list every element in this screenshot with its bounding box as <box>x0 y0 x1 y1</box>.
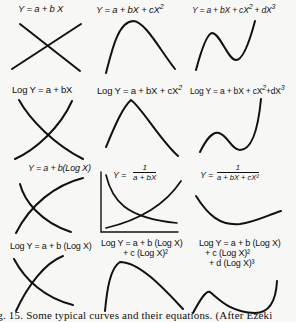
curve-loglog <box>14 256 73 311</box>
equation-line-3: + d (Log X)³ <box>199 258 281 268</box>
curve-log-linear <box>15 100 83 159</box>
figure-caption: ig. 15. Some typical curves and their eq… <box>0 309 273 321</box>
equation-text: Y = a + b X <box>18 3 63 14</box>
equation-line-1: Log Y = a + b (Log X) <box>101 238 183 248</box>
curve-cubic <box>196 21 255 70</box>
curve-linear <box>12 24 81 71</box>
equation-text: Log Y = a + bX + cX <box>97 85 178 96</box>
equation-semilog: Y = a + b(Log X) <box>28 163 91 173</box>
equation-cubic: Y = a + bX + cX2 + dX3 <box>192 3 275 15</box>
equation-line-1: Log Y = a + b (Log X) <box>199 238 281 248</box>
equation-line-2: + c (Log X)² <box>199 248 281 258</box>
equation-log-cubic: Log Y = a + bX + cX2+dX3 <box>190 84 284 96</box>
fraction-denominator: a + bX + cX² <box>217 173 259 182</box>
equation-text: Y = a + bX + cX <box>192 5 249 15</box>
exponent: 3 <box>281 84 285 91</box>
equation-reciprocal-quadratic-prefix: Y = <box>200 170 213 180</box>
exponent: 2 <box>160 3 164 10</box>
curve-log-quadratic <box>106 100 178 156</box>
equation-text: Y = a + bX + cX <box>96 4 160 15</box>
fraction-numerator: 1 <box>133 163 156 173</box>
equation-text: Y = <box>200 170 213 180</box>
curves-canvas <box>0 0 296 322</box>
equation-loglog-cubic: Log Y = a + b (Log X) + c (Log X)² + d (… <box>199 238 281 268</box>
curve-loglog-quadratic <box>105 262 183 311</box>
equation-line-2: + c (Log X)² <box>101 248 183 258</box>
curve-quadratic <box>106 21 175 73</box>
equation-text: Y = <box>113 170 126 180</box>
equation-linear: Y = a + b X <box>18 3 63 14</box>
equation-log-linear: Log Y = a + bX <box>12 84 72 95</box>
curve-semilog <box>16 178 83 233</box>
equation-text: +dX <box>266 86 281 96</box>
exponent: 2 <box>178 84 182 91</box>
curve-log-cubic <box>200 99 261 152</box>
fraction-numerator: 1 <box>217 163 259 173</box>
fraction-denominator: a + bX <box>133 173 156 182</box>
equation-log-quadratic: Log Y = a + bX + cX2 <box>97 84 182 96</box>
equation-text: Y = a + b(Log X) <box>28 163 91 173</box>
equation-reciprocal-quadratic-fraction: 1 a + bX + cX² <box>217 163 259 182</box>
equation-text: + dX <box>252 5 271 15</box>
equation-quadratic: Y = a + bX + cX2 <box>96 3 163 15</box>
equation-text: Log Y = a + b (Log X) <box>10 241 92 251</box>
equation-reciprocal-prefix: Y = <box>113 170 126 180</box>
curve-reciprocal-quadratic <box>196 196 281 224</box>
equation-text: Log Y = a + bX + cX <box>190 86 262 96</box>
equation-reciprocal-fraction: 1 a + bX <box>133 163 156 182</box>
equation-loglog-quadratic: Log Y = a + b (Log X) + c (Log X)² <box>101 238 183 258</box>
exponent: 3 <box>271 3 275 10</box>
equation-text: Log Y = a + bX <box>12 84 72 95</box>
equation-loglog: Log Y = a + b (Log X) <box>10 241 92 251</box>
